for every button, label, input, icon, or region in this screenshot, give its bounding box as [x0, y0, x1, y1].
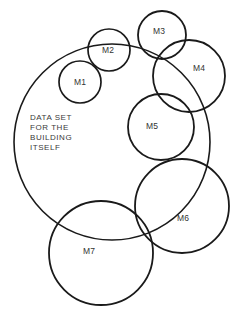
caption-line-3: BUILDING	[30, 133, 72, 142]
label-m1: M1	[74, 77, 86, 87]
label-m2: M2	[102, 45, 114, 55]
circle-m6[interactable]	[135, 159, 229, 253]
label-m7: M7	[83, 246, 95, 256]
venn-diagram-svg: M1 M2 M3 M4 M5 M6 M7 DATA SET FOR THE BU…	[0, 0, 243, 315]
circle-m5[interactable]	[128, 94, 194, 160]
venn-diagram-canvas: M1 M2 M3 M4 M5 M6 M7 DATA SET FOR THE BU…	[0, 0, 243, 315]
caption-line-4: ITSELF	[30, 143, 60, 152]
circle-m4[interactable]	[153, 40, 225, 112]
label-m5: M5	[146, 121, 158, 131]
caption-line-1: DATA SET	[30, 113, 72, 122]
label-m6: M6	[177, 213, 189, 223]
main-set-caption: DATA SET FOR THE BUILDING ITSELF	[30, 113, 72, 152]
circle-building-itself[interactable]	[14, 44, 210, 240]
circle-m7[interactable]	[49, 201, 153, 305]
caption-line-2: FOR THE	[30, 123, 69, 132]
label-m4: M4	[193, 63, 205, 73]
label-m3: M3	[153, 26, 165, 36]
